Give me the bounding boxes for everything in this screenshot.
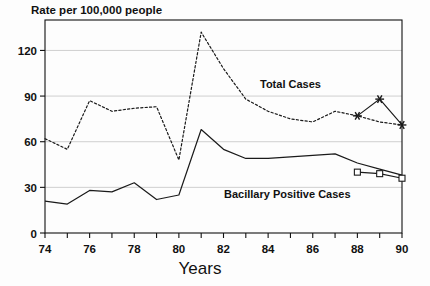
marker-square-bacillary-positive-cases-89 — [377, 171, 383, 177]
x-tick-label-76: 76 — [83, 243, 96, 255]
rate-per-100000-line-chart: Rate per 100,000 people 0306090120 74767… — [0, 0, 430, 286]
y-tick-label-60: 60 — [24, 136, 37, 148]
chart-background — [0, 0, 430, 286]
marker-square-bacillary-positive-cases-88 — [354, 169, 360, 175]
x-tick-label-82: 82 — [217, 243, 230, 255]
chart-figure: Rate per 100,000 people 0306090120 74767… — [0, 0, 430, 286]
x-tick-label-78: 78 — [128, 243, 141, 255]
chart-title: Rate per 100,000 people — [31, 4, 162, 16]
x-axis-label: Years — [179, 259, 222, 278]
x-tick-label-88: 88 — [351, 243, 364, 255]
x-tick-label-84: 84 — [262, 243, 275, 255]
x-tick-label-90: 90 — [396, 243, 409, 255]
y-tick-label-0: 0 — [31, 228, 37, 240]
marker-square-bacillary-positive-cases-90 — [399, 175, 405, 181]
y-tick-label-120: 120 — [18, 45, 37, 57]
y-tick-label-30: 30 — [24, 182, 37, 194]
x-axis-tick-labels: 747678808284868890 — [39, 243, 409, 255]
x-tick-label-74: 74 — [39, 243, 52, 255]
x-tick-label-80: 80 — [172, 243, 185, 255]
series-label-bacillary-positive-cases: Bacillary Positive Cases — [224, 188, 351, 200]
y-tick-label-90: 90 — [24, 91, 37, 103]
x-tick-label-86: 86 — [306, 243, 319, 255]
series-label-total-cases: Total Cases — [260, 78, 321, 90]
